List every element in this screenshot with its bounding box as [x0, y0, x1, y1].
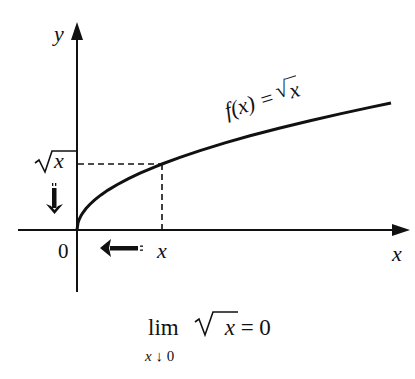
x-marker-label: x — [157, 240, 167, 262]
limit-operator: lim — [148, 315, 179, 340]
limit-subscript: x ↓ 0 — [145, 348, 174, 365]
limit-radicand: x — [225, 315, 235, 340]
sqrt-x-marker-label: x — [54, 150, 64, 172]
limit-subscript-target: 0 — [167, 348, 175, 364]
limit-subscript-arrow: ↓ — [155, 348, 163, 364]
limit-subscript-var: x — [145, 348, 152, 364]
left-arrow-icon — [100, 239, 143, 257]
down-arrow-icon — [46, 183, 63, 214]
limit-equals: = 0 — [241, 315, 271, 340]
x-axis-arrow-icon — [392, 224, 410, 236]
x-axis-label: x — [392, 243, 402, 265]
origin-label: 0 — [58, 241, 69, 262]
y-axis-label: y — [54, 23, 64, 45]
y-axis-arrow-icon — [71, 22, 83, 40]
limit-expression: limx = 0 — [148, 315, 271, 341]
